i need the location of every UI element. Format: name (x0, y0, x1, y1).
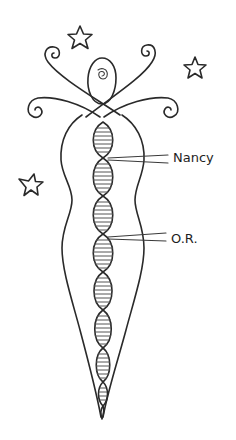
goddess-dna-illustration (0, 0, 236, 440)
dna-segment-6 (95, 310, 112, 348)
spiral-icon (98, 69, 107, 79)
star-icon-right (184, 57, 206, 78)
label-nancy: Nancy (173, 151, 214, 164)
leader-line-or (108, 233, 166, 241)
dna-segment-2 (93, 158, 113, 196)
upper-arms (45, 45, 155, 117)
dna-segment-8 (99, 382, 108, 406)
body-outline (61, 115, 144, 417)
label-or: O.R. (171, 232, 198, 245)
dna-tip (101, 406, 104, 419)
dna-segment-5 (94, 272, 112, 310)
dna-helix (93, 122, 113, 419)
leader-line-nancy (108, 155, 168, 163)
lower-arms (28, 98, 178, 118)
dna-segment-1 (93, 122, 113, 158)
dna-segment-4 (93, 234, 113, 272)
star-icon-left (19, 174, 43, 196)
star-icon-top (68, 26, 92, 49)
dna-segment-3 (93, 196, 113, 234)
dna-segment-7 (96, 348, 110, 382)
